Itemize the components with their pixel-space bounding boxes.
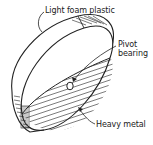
- disk-diagram: Light foam plastic Pivot bearing Heavy m…: [0, 0, 153, 145]
- label-bearing: bearing: [118, 49, 148, 58]
- label-pivot: Pivot: [118, 40, 137, 49]
- label-heavy-metal: Heavy metal: [96, 120, 146, 129]
- leader-metal: [80, 110, 95, 124]
- pivot-bearing-icon: [67, 82, 73, 90]
- leader-foam: [38, 12, 44, 32]
- label-light-foam-plastic: Light foam plastic: [45, 6, 115, 15]
